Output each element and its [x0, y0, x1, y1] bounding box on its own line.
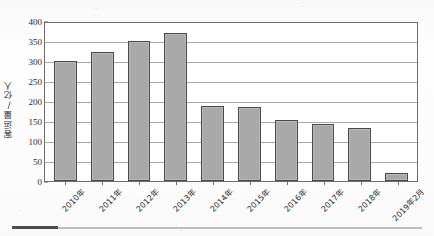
bar-cell: [47, 23, 84, 181]
x-tick-mark: [176, 182, 177, 185]
x-tick-mark: [139, 182, 140, 185]
x-tick-mark: [398, 182, 399, 185]
x-axis-ticks: 2010年2011年2012年2013年2014年2015年2016年2017年…: [44, 184, 418, 228]
x-tick-cell: 2016年: [268, 184, 305, 228]
y-axis-ticks: 400350300250200150100500: [18, 17, 44, 187]
y-tick-label: 300: [29, 57, 43, 67]
bar-cell: [121, 23, 158, 181]
bar: [91, 52, 114, 181]
bar: [238, 107, 261, 181]
y-tick-label: 100: [29, 137, 43, 147]
x-tick-cell: 2011年: [83, 184, 120, 228]
bar-cell: [268, 23, 305, 181]
bar: [312, 124, 335, 181]
x-tick-mark: [324, 182, 325, 185]
bar-cell: [157, 23, 194, 181]
bar-series: [45, 23, 417, 181]
bar-cell: [231, 23, 268, 181]
x-tick-mark: [213, 182, 214, 185]
x-tick-cell: 2018年: [342, 184, 379, 228]
x-tick-label: 2019年2月: [389, 186, 426, 223]
x-tick-cell: 2017年: [305, 184, 342, 228]
x-tick-mark: [250, 182, 251, 185]
y-axis-title: 客运量/亿人: [2, 58, 16, 138]
x-tick-cell: 2012年: [120, 184, 157, 228]
footer-rule-accent: [12, 226, 58, 229]
y-tick-label: 350: [29, 37, 43, 47]
bar-cell: [305, 23, 342, 181]
y-tick-label: 400: [29, 17, 43, 27]
bar-cell: [194, 23, 231, 181]
bar: [128, 41, 151, 181]
bar: [164, 33, 187, 181]
x-tick-mark: [287, 182, 288, 185]
y-tick-label: 200: [29, 97, 43, 107]
x-tick-mark: [361, 182, 362, 185]
x-tick-cell: 2014年: [194, 184, 231, 228]
x-tick-mark: [65, 182, 66, 185]
y-tick-label: 0: [38, 177, 43, 187]
x-tick-cell: 2013年: [157, 184, 194, 228]
bar-cell: [84, 23, 121, 181]
x-tick-cell: 2015年: [231, 184, 268, 228]
bar-cell: [341, 23, 378, 181]
y-tick-label: 150: [29, 117, 43, 127]
footer-rule: [12, 227, 422, 229]
bar: [54, 61, 77, 181]
bar: [201, 106, 224, 181]
bar: [385, 173, 408, 181]
plot-area: [44, 22, 418, 182]
x-tick-mark: [102, 182, 103, 185]
y-tick-label: 250: [29, 77, 43, 87]
bar: [275, 120, 298, 181]
x-tick-cell: 2010年: [46, 184, 83, 228]
y-tick-label: 50: [33, 157, 42, 167]
bar-chart-figure: 客运量/亿人 400350300250200150100500 2010年201…: [0, 0, 434, 236]
bar: [348, 128, 371, 181]
bar-cell: [378, 23, 415, 181]
x-tick-cell: 2019年2月: [379, 184, 416, 228]
